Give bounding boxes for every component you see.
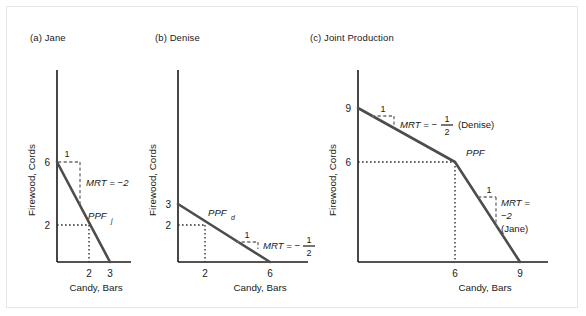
panel-b-x-tick-6: 6 [267, 268, 273, 279]
panel-c-mrt-upper-numerator: 1 [444, 114, 449, 124]
panel-c-upper-run-label: 1 [380, 104, 385, 114]
panel-b-run-label: 1 [244, 230, 249, 240]
panel-c-mrt-upper-denominator: 2 [444, 127, 449, 137]
panel-b-x-axis-label: Candy, Bars [233, 282, 286, 293]
panel-c-y-axis-label: Firewood, Cords [327, 144, 338, 216]
panel-b-y-tick-3: 3 [165, 199, 171, 210]
panel-c-lower-run-label: 1 [486, 185, 491, 195]
panel-a-ppf-subscript: j [110, 217, 113, 225]
panel-c-x-axis-label: Candy, Bars [458, 282, 511, 293]
panel-b-ppf-label: PPF [208, 207, 228, 218]
panel-b-mrt-prefix: MRT = − [263, 240, 301, 251]
panel-c-mrt-lower-line1: MRT = [501, 197, 530, 208]
panel-a-y-tick-6: 6 [44, 157, 50, 168]
panel-c-mrt-upper-who: (Denise) [458, 119, 494, 130]
panel-c-mrt-upper-prefix: MRT = − [400, 119, 438, 130]
panel-denise: (b) Denise Firewood, Cords Candy, Bars 3… [148, 0, 313, 316]
panel-c-ppf-line [358, 108, 520, 262]
panel-c-chart: Firewood, Cords Candy, Bars 9 6 6 9 1 MR… [300, 0, 586, 316]
panel-a-run-label: 1 [64, 149, 69, 159]
panel-b-y-axis-label: Firewood, Cords [147, 144, 158, 216]
panel-a-y-axis-label: Firewood, Cords [26, 144, 37, 216]
figure-root: (a) Jane Firewood, Cords Candy, Bars 6 2… [0, 0, 586, 316]
panel-a-x-tick-2: 2 [86, 268, 92, 279]
panel-joint-production: (c) Joint Production Firewood, Cords Can… [300, 0, 586, 316]
panel-c-y-tick-6: 6 [345, 157, 351, 168]
panel-b-ppf-subscript: d [231, 214, 236, 221]
panel-c-y-tick-9: 9 [345, 103, 351, 114]
panel-c-ppf-label: PPF [466, 147, 486, 158]
panel-a-x-tick-3: 3 [107, 268, 113, 279]
panel-c-x-tick-6: 6 [452, 268, 458, 279]
panel-jane: (a) Jane Firewood, Cords Candy, Bars 6 2… [0, 0, 150, 316]
panel-a-x-axis-label: Candy, Bars [69, 282, 122, 293]
panel-c-mrt-lower-who: (Jane) [501, 223, 528, 234]
panel-c-mrt-lower-line2: −2 [501, 210, 513, 221]
panel-c-x-tick-9: 9 [517, 268, 523, 279]
panel-a-ppf-label: PPF [88, 210, 108, 221]
panel-a-chart: Firewood, Cords Candy, Bars 6 2 2 3 1 MR… [0, 0, 150, 316]
panel-a-mrt-label: MRT = −2 [86, 177, 129, 188]
panel-b-chart: Firewood, Cords Candy, Bars 3 2 2 6 1 MR… [148, 0, 313, 316]
panel-a-y-tick-2: 2 [44, 220, 50, 231]
panel-b-y-tick-2: 2 [165, 220, 171, 231]
panel-b-x-tick-2: 2 [202, 268, 208, 279]
